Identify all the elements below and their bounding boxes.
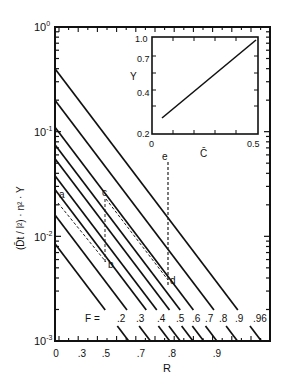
f-label: .8 (219, 313, 228, 324)
x-tick-labels: 0.3.5.7.8.9 (53, 348, 221, 359)
y-axis-label: (D̄t / l²) · n² · Y (14, 186, 26, 250)
series-line-F.3 (55, 215, 127, 310)
series-line-F.6 (55, 159, 170, 310)
series-line-F.2 (55, 244, 105, 310)
inset-x-label: C̄ (200, 147, 207, 159)
f-label: .3 (136, 313, 145, 324)
svg-text:10-2: 10-2 (34, 230, 53, 243)
f-value-labels: .2.3.4.5.6.7.8.9.96 (117, 313, 267, 324)
svg-text:10-1: 10-1 (34, 125, 53, 138)
svg-text:.9: .9 (213, 348, 222, 359)
chart-figure: abcde 100 10-1 10-2 10-3 (D̄t / l²) · n²… (0, 0, 286, 392)
svg-text:.3: .3 (78, 348, 87, 359)
svg-text:0.4: 0.4 (137, 88, 150, 98)
f-label: .2 (117, 313, 126, 324)
svg-text:10-3: 10-3 (34, 334, 53, 347)
svg-text:100: 100 (34, 20, 50, 33)
svg-text:0: 0 (149, 139, 154, 149)
y-tick-labels: 100 10-1 10-2 10-3 (34, 20, 53, 347)
svg-text:1.0: 1.0 (135, 34, 148, 44)
series-line-F.7 (55, 145, 180, 310)
annotation-d: d (170, 275, 176, 286)
svg-text:0.5: 0.5 (247, 139, 260, 149)
annotation-c: c (102, 187, 107, 198)
annotation-b: b (108, 259, 114, 270)
inset-y-label: Y (130, 71, 137, 82)
f-label: .4 (157, 313, 166, 324)
legend-prefix: F = (85, 313, 100, 324)
f-label: .7 (205, 313, 214, 324)
svg-text:.5: .5 (102, 348, 111, 359)
series-line-F.4 (55, 190, 146, 310)
svg-text:.8: .8 (168, 348, 177, 359)
f-label: .6 (192, 313, 201, 324)
svg-text:0.2: 0.2 (137, 129, 150, 139)
f-label: .9 (235, 313, 244, 324)
annotation-a: a (59, 189, 65, 200)
f-label: .96 (253, 313, 267, 324)
svg-text:0: 0 (53, 348, 59, 359)
svg-text:.7: .7 (137, 348, 146, 359)
inset-chart: 1.0 0.7 0.4 0.2 0 0.5 Y C̄ (130, 34, 260, 159)
annotation-e: e (162, 151, 168, 162)
f-label: .5 (176, 313, 185, 324)
svg-text:0.7: 0.7 (137, 54, 150, 64)
x-axis-label: R (163, 362, 171, 374)
